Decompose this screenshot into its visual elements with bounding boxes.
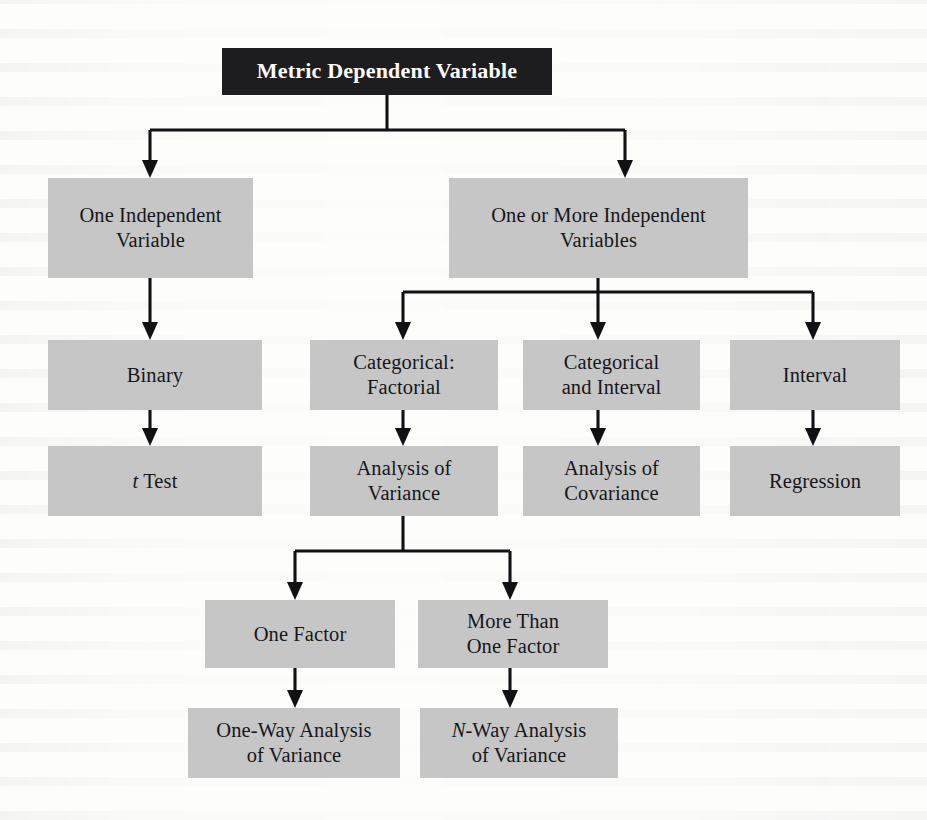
node-categorical-and-interval[interactable]: Categorical and Interval [523, 340, 700, 410]
node-label-italic: N [452, 719, 466, 741]
node-label: Metric Dependent Variable [251, 58, 523, 85]
node-n-way-analysis-of-variance[interactable]: N-Way Analysis of Variance [420, 708, 618, 778]
node-one-or-more-independent-variables[interactable]: One or More Independent Variables [449, 178, 748, 278]
node-label: Categorical: Factorial [347, 350, 460, 400]
node-label-line1: Analysis of [564, 457, 659, 479]
node-label-line2: Factorial [367, 376, 441, 398]
node-label: One-Way Analysis of Variance [210, 718, 377, 768]
node-label-line1: One-Way Analysis [216, 719, 371, 741]
node-label: One Independent Variable [73, 203, 227, 253]
node-label-line2: Variance [368, 482, 441, 504]
node-one-factor[interactable]: One Factor [205, 600, 395, 668]
node-t-test[interactable]: t Test [48, 446, 262, 516]
node-label: Binary [121, 363, 189, 388]
node-label-line1: Categorical [564, 351, 660, 373]
node-label-line2: of Variance [247, 744, 342, 766]
node-label: Interval [777, 363, 854, 388]
node-metric-dependent-variable[interactable]: Metric Dependent Variable [222, 48, 552, 95]
node-label-rest: -Way Analysis [465, 719, 586, 741]
node-regression[interactable]: Regression [730, 446, 900, 516]
node-analysis-of-variance[interactable]: Analysis of Variance [310, 446, 498, 516]
node-label-line2: and Interval [562, 376, 662, 398]
node-label-rest: Test [138, 470, 177, 492]
connector-lines [0, 0, 927, 820]
node-label-line2: Variable [116, 229, 185, 251]
node-label-line2: of Variance [472, 744, 567, 766]
page-bleed-texture [0, 0, 927, 820]
node-label-line2: Covariance [564, 482, 658, 504]
node-binary[interactable]: Binary [48, 340, 262, 410]
node-label: One or More Independent Variables [485, 203, 712, 253]
flowchart-canvas: Metric Dependent Variable One Independen… [0, 0, 927, 820]
node-more-than-one-factor[interactable]: More Than One Factor [418, 600, 608, 668]
node-label: One Factor [248, 622, 353, 647]
node-label-line1: Categorical: [353, 351, 454, 373]
node-one-way-analysis-of-variance[interactable]: One-Way Analysis of Variance [188, 708, 400, 778]
node-categorical-factorial[interactable]: Categorical: Factorial [310, 340, 498, 410]
node-analysis-of-covariance[interactable]: Analysis of Covariance [523, 446, 700, 516]
node-label-line1: Analysis of [356, 457, 451, 479]
node-label: Analysis of Variance [350, 456, 457, 506]
node-label: Analysis of Covariance [558, 456, 665, 506]
node-interval[interactable]: Interval [730, 340, 900, 410]
node-label-line1: More Than [467, 610, 559, 632]
node-one-independent-variable[interactable]: One Independent Variable [48, 178, 253, 278]
node-label: Categorical and Interval [556, 350, 668, 400]
node-label: t Test [127, 469, 184, 494]
node-label-line1: One or More Independent [491, 204, 706, 226]
node-label: Regression [763, 469, 867, 494]
node-label-line1: One Independent [79, 204, 221, 226]
node-label: More Than One Factor [461, 609, 566, 659]
node-label-line2: Variables [560, 229, 637, 251]
node-label-line2: One Factor [467, 635, 560, 657]
node-label: N-Way Analysis of Variance [446, 718, 593, 768]
